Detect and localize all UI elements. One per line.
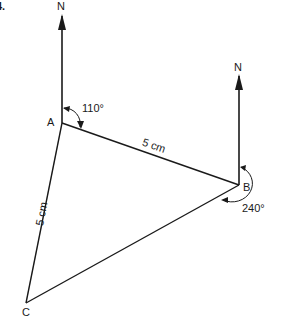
arc-arrowhead-icon <box>77 121 84 129</box>
question-number: 4. <box>0 0 5 12</box>
point-label-a: A <box>47 116 55 128</box>
arc-arrowhead-icon <box>240 165 246 171</box>
side-ac-length: 5 cm <box>33 201 49 227</box>
north-arrow-a: N <box>57 0 66 123</box>
bearing-label-b: 240° <box>242 202 265 214</box>
arc-arrowhead-icon <box>221 197 228 203</box>
side-bc <box>26 185 239 303</box>
point-label-b: B <box>243 181 250 193</box>
side-ab <box>62 123 239 185</box>
point-label-c: C <box>22 306 30 317</box>
north-label-a: N <box>57 0 65 12</box>
north-arrow-b: N <box>234 61 243 185</box>
bearing-label-a: 110° <box>82 102 104 114</box>
arrowhead-icon <box>58 14 66 30</box>
bearing-triangle-diagram: 4. N N 5 cm 5 cm 110° 240° A B C <box>0 0 281 317</box>
arrowhead-icon <box>235 74 243 90</box>
arc-arrowhead-icon <box>63 106 70 112</box>
north-label-b: N <box>234 61 242 73</box>
